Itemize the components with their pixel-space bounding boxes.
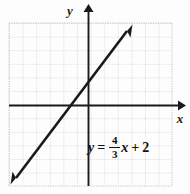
fraction-numerator: 4 [112,135,118,147]
x-axis-label: x [176,111,184,126]
equation-constant: 2 [142,140,149,156]
y-axis-arrowhead-icon [84,4,94,12]
equation-equals: = [94,140,108,156]
equation-fraction: 4 3 [109,135,120,161]
x-axis-arrowhead-icon [178,101,186,111]
graph-figure: y x y = 4 3 x + 2 [0,0,190,194]
equation-variable: x [121,140,128,156]
y-axis-label: y [65,3,73,18]
equation-label: y = 4 3 x + 2 [88,131,168,165]
equation-plus: + [128,140,142,156]
fraction-denominator: 3 [112,149,118,161]
